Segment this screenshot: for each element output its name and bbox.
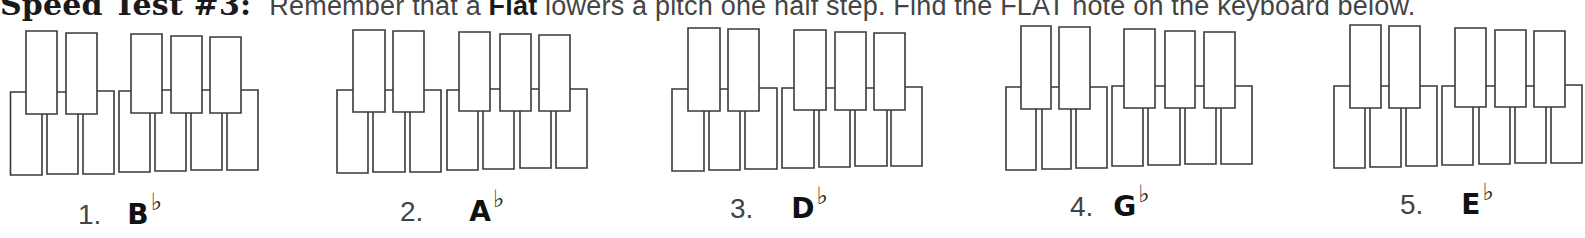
black-key-1[interactable] xyxy=(353,30,385,112)
black-key-4[interactable] xyxy=(1165,31,1195,108)
black-key-4[interactable] xyxy=(171,36,202,113)
black-key-2[interactable] xyxy=(66,33,97,114)
note-name: E xyxy=(1461,188,1480,221)
black-key-2[interactable] xyxy=(1389,26,1420,108)
note-name: D xyxy=(791,192,814,225)
black-key-1[interactable] xyxy=(688,28,720,111)
black-key-4[interactable] xyxy=(1495,30,1526,107)
black-key-5[interactable] xyxy=(1534,31,1565,107)
black-key-2[interactable] xyxy=(393,31,424,112)
exercise-number: 4. xyxy=(1070,191,1093,222)
black-key-5[interactable] xyxy=(1204,32,1235,108)
black-key-5[interactable] xyxy=(210,37,241,113)
black-key-3[interactable] xyxy=(794,30,826,110)
exercise-number: 5. xyxy=(1400,189,1423,220)
note-name: A xyxy=(469,195,491,228)
exercise-label: 4.G♭ xyxy=(1070,190,1150,223)
keyboard-exercise-1: 1.B♭ xyxy=(0,0,270,238)
keyboard-exercise-5: 5.E♭ xyxy=(1300,0,1585,238)
note-name: B xyxy=(127,198,148,231)
black-key-3[interactable] xyxy=(131,34,162,113)
flat-symbol-icon: ♭ xyxy=(817,182,828,210)
exercise-number: 3. xyxy=(730,193,753,224)
exercise-number: 1. xyxy=(78,199,101,230)
exercise-label: 2.A♭ xyxy=(400,195,504,228)
exercise-label: 3.D♭ xyxy=(730,192,828,225)
flat-symbol-icon: ♭ xyxy=(493,185,504,213)
flat-symbol-icon: ♭ xyxy=(1138,180,1149,208)
black-key-3[interactable] xyxy=(459,32,490,111)
exercise-number: 2. xyxy=(400,196,423,227)
keyboard-exercise-4: 4.G♭ xyxy=(980,0,1250,238)
black-key-3[interactable] xyxy=(1455,28,1486,107)
black-key-2[interactable] xyxy=(728,29,759,111)
keyboard-exercise-2: 2.A♭ xyxy=(320,0,590,238)
black-key-2[interactable] xyxy=(1059,27,1090,109)
black-key-1[interactable] xyxy=(1021,26,1051,109)
black-key-1[interactable] xyxy=(26,31,57,114)
black-key-5[interactable] xyxy=(539,35,570,111)
black-key-1[interactable] xyxy=(1350,25,1381,108)
flat-symbol-icon: ♭ xyxy=(151,188,162,216)
black-key-4[interactable] xyxy=(835,32,866,110)
exercise-label: 5.E♭ xyxy=(1400,188,1494,221)
flat-symbol-icon: ♭ xyxy=(1483,178,1494,206)
black-key-5[interactable] xyxy=(874,33,905,110)
note-name: G xyxy=(1113,190,1136,223)
exercise-label: 1.B♭ xyxy=(78,198,162,231)
black-key-4[interactable] xyxy=(500,34,531,111)
black-key-3[interactable] xyxy=(1124,29,1155,108)
keyboard-exercise-3: 3.D♭ xyxy=(650,0,920,238)
